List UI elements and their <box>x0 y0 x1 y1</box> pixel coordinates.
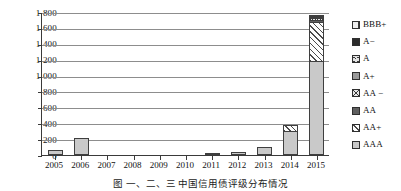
x-axis-tick-label: 2005 <box>41 160 67 170</box>
legend-item[interactable]: A− <box>352 33 401 50</box>
legend-item-label: A− <box>363 37 375 46</box>
legend-item[interactable]: AAA <box>352 136 401 153</box>
plot-area <box>41 13 329 156</box>
legend-item-label: AA − <box>363 89 383 98</box>
swatch-aaa-icon <box>352 141 360 149</box>
bar-column[interactable] <box>74 138 89 155</box>
bar-column[interactable] <box>283 125 298 155</box>
legend-item-label: A+ <box>363 72 375 81</box>
bar-column[interactable] <box>205 153 220 155</box>
legend-item[interactable]: BBB+ <box>352 16 401 33</box>
bar-segment[interactable] <box>257 147 272 155</box>
legend-item[interactable]: AA − <box>352 85 401 102</box>
legend-item-label: AAA <box>363 140 383 149</box>
x-axis-tick-label: 2013 <box>250 160 276 170</box>
legend-item-label: A <box>363 54 370 63</box>
swatch-aa-minus-icon <box>352 89 360 97</box>
legend-item[interactable]: AA+ <box>352 119 401 136</box>
legend-item-label: BBB+ <box>363 20 387 29</box>
bar-segment[interactable] <box>309 22 324 62</box>
bar-column[interactable] <box>231 152 246 155</box>
swatch-aa-plus-icon <box>352 124 360 132</box>
bar-segment[interactable] <box>231 152 246 155</box>
legend-item[interactable]: A+ <box>352 68 401 85</box>
bar-segment[interactable] <box>283 131 298 155</box>
swatch-a-icon <box>352 55 360 63</box>
bar-segment[interactable] <box>48 150 63 155</box>
bar-column[interactable] <box>309 15 324 155</box>
bar-column[interactable] <box>257 147 272 155</box>
legend-item[interactable]: A <box>352 50 401 67</box>
swatch-a-minus-icon <box>352 38 360 46</box>
x-axis-tick-label: 2006 <box>67 160 93 170</box>
x-axis-tick-label: 2011 <box>198 160 224 170</box>
legend-item-label: AA+ <box>363 123 381 132</box>
x-axis-tick-label: 2008 <box>120 160 146 170</box>
x-axis-tick-label: 2014 <box>277 160 303 170</box>
bar-column[interactable] <box>48 150 63 155</box>
x-axis-tick-label: 2010 <box>172 160 198 170</box>
legend-item[interactable]: AA <box>352 102 401 119</box>
swatch-a-plus-icon <box>352 72 360 80</box>
swatch-bbb-plus-icon <box>352 21 360 29</box>
figure-caption: 图 一、二、三 中国信用债评级分布情况 <box>0 179 401 191</box>
x-axis-tick-label: 2007 <box>93 160 119 170</box>
swatch-aa-icon <box>352 107 360 115</box>
bar-segment[interactable] <box>309 61 324 155</box>
x-axis-labels: 2005200620072008200920102011201220132014… <box>41 160 329 172</box>
bar-segment[interactable] <box>205 153 220 155</box>
chart-legend: BBB+A−AA+AA −AAAA+AAA <box>352 16 401 154</box>
legend-item-label: AA <box>363 106 376 115</box>
x-axis-tick-label: 2015 <box>303 160 329 170</box>
x-axis-tick-label: 2009 <box>146 160 172 170</box>
y-axis-tick <box>38 156 42 157</box>
x-axis-tick-label: 2012 <box>224 160 250 170</box>
stacked-bar-chart: 02004006008001 0001 2001 4001 6001 800 2… <box>0 0 401 191</box>
bar-segment[interactable] <box>74 138 89 155</box>
bar-group <box>42 13 329 155</box>
